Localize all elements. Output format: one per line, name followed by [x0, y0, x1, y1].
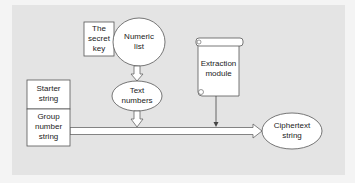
- arrow-extraction-to-flow: [214, 96, 219, 127]
- text-numbers-line-1: Text: [114, 86, 160, 96]
- main-flow-arrow: [70, 124, 262, 138]
- ciphertext-string-label: Ciphertext string: [266, 121, 318, 141]
- group-number-line-1: Group: [27, 112, 70, 122]
- group-number-line-2: number: [27, 122, 70, 132]
- arrow-text-to-flow: [131, 111, 143, 127]
- ciphertext-line-2: string: [266, 131, 318, 141]
- secret-key-line-1: The: [84, 24, 114, 34]
- numeric-list-label: Numeric list: [116, 32, 162, 52]
- secret-key-label: The secret key: [84, 24, 114, 54]
- ciphertext-line-1: Ciphertext: [266, 121, 318, 131]
- text-numbers-line-2: numbers: [114, 96, 160, 106]
- numeric-list-line-2: list: [116, 42, 162, 52]
- arrow-numeric-to-text: [131, 66, 143, 81]
- group-number-line-3: string: [27, 132, 70, 142]
- extraction-module-line-2: module: [198, 69, 239, 79]
- group-number-string-label: Group number string: [27, 112, 70, 142]
- text-numbers-label: Text numbers: [114, 86, 160, 106]
- secret-key-line-2: secret: [84, 34, 114, 44]
- extraction-module-line-1: Extraction: [198, 59, 239, 69]
- numeric-list-line-1: Numeric: [116, 32, 162, 42]
- starter-string-label: Starter string: [27, 84, 70, 104]
- starter-string-line-2: string: [27, 94, 70, 104]
- starter-string-line-1: Starter: [27, 84, 70, 94]
- extraction-module-label: Extraction module: [198, 59, 239, 79]
- secret-key-line-3: key: [84, 44, 114, 54]
